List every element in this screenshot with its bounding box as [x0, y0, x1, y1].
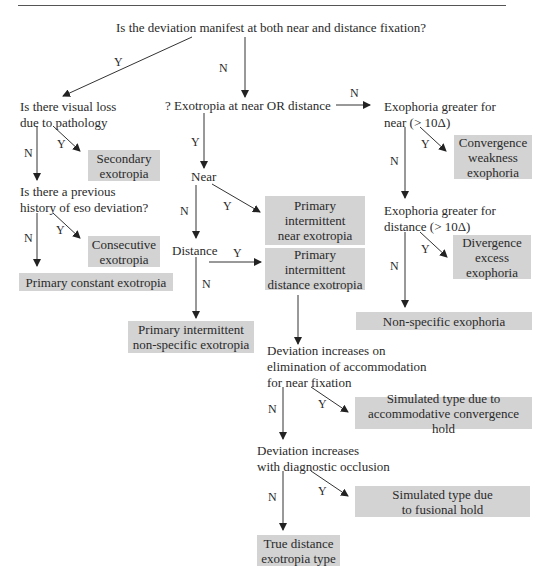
- edge-label-yes: Y: [223, 200, 232, 212]
- edge-label-yes: Y: [421, 243, 430, 255]
- outcome-line: accommodative convergence hold: [355, 406, 532, 436]
- edge-label-yes: Y: [56, 224, 65, 236]
- outcome-line: Secondary: [97, 151, 152, 166]
- outcome-line: weakness: [468, 150, 518, 165]
- outcome-line: near exotropia: [278, 228, 353, 243]
- question-distance: Distance: [172, 243, 217, 259]
- question-occlusion-line: Deviation increases: [257, 443, 390, 459]
- question-eso-history-line: Is there a previous: [20, 184, 148, 200]
- outcome-line: exophoria: [466, 265, 518, 280]
- question-exophoria-near: Exophoria greater for near (> 10Δ): [384, 99, 496, 131]
- edge-label-no: N: [268, 491, 277, 503]
- question-visual-loss-line: due to pathology: [20, 115, 116, 131]
- outcome-line: exotropia type: [261, 551, 336, 566]
- question-visual-loss: Is there visual loss due to pathology: [20, 99, 116, 131]
- outcome-line: Primary: [294, 198, 336, 213]
- question-accommodation-line: elimination of accommodation: [267, 359, 427, 375]
- outcome-consecutive-exotropia: Consecutive exotropia: [88, 236, 160, 267]
- question-accommodation-line: Deviation increases on: [267, 343, 427, 359]
- outcome-line: to fusional hold: [402, 502, 484, 517]
- outcome-line: Simulated type due: [392, 487, 492, 502]
- question-exophoria-distance: Exophoria greater for distance (> 10Δ): [384, 203, 496, 235]
- outcome-line: True distance: [264, 536, 334, 551]
- question-exophoria-near-line: near (> 10Δ): [384, 115, 496, 131]
- outcome-line: exotropia: [99, 166, 148, 181]
- edge-label-yes: Y: [191, 136, 200, 148]
- edge-label-no: N: [180, 205, 189, 217]
- question-accommodation-line: for near fixation: [267, 375, 427, 391]
- edge-label-yes: Y: [421, 138, 430, 150]
- outcome-line: Primary intermittent: [138, 322, 244, 337]
- outcome-line: Simulated type due to: [387, 391, 501, 406]
- outcome-secondary-exotropia: Secondary exotropia: [88, 150, 160, 181]
- outcome-line: exotropia: [99, 252, 148, 267]
- outcome-line: Non-specific exophoria: [383, 314, 505, 329]
- question-exophoria-distance-line: Exophoria greater for: [384, 203, 496, 219]
- question-near: Near: [191, 169, 216, 185]
- question-exophoria-near-line: Exophoria greater for: [384, 99, 496, 115]
- edge-label-yes: Y: [233, 247, 242, 259]
- outcome-convergence-weakness-exophoria: Convergence weakness exophoria: [454, 135, 532, 179]
- outcome-line: Divergence: [462, 235, 522, 250]
- edge-label-no: N: [219, 62, 228, 74]
- outcome-line: exophoria: [467, 165, 519, 180]
- edge-label-no: N: [390, 155, 399, 167]
- outcome-true-distance-exotropia: True distance exotropia type: [257, 535, 340, 566]
- edge-label-no: N: [390, 260, 399, 272]
- question-visual-loss-line: Is there visual loss: [20, 99, 116, 115]
- outcome-intermittent-distance-exotropia: Primary intermittent distance exotropia: [265, 248, 365, 290]
- edge-label-no: N: [350, 87, 359, 99]
- outcome-intermittent-nonspecific-exotropia: Primary intermittent non-specific exotro…: [128, 321, 254, 353]
- edge-label-yes: Y: [318, 398, 327, 410]
- outcome-line: intermittent: [285, 213, 346, 228]
- outcome-line: Convergence: [459, 135, 527, 150]
- outcome-line: non-specific exotropia: [133, 337, 250, 352]
- question-exophoria-distance-line: distance (> 10Δ): [384, 219, 496, 235]
- edge-label-yes: Y: [114, 56, 123, 68]
- outcome-primary-constant-exotropia: Primary constant exotropia: [19, 273, 173, 291]
- edge-label-yes: Y: [57, 138, 66, 150]
- edge-label-no: N: [202, 278, 211, 290]
- outcome-line: Consecutive: [92, 237, 156, 252]
- question-root: Is the deviation manifest at both near a…: [116, 20, 426, 36]
- outcome-intermittent-near-exotropia: Primary intermittent near exotropia: [265, 196, 365, 245]
- outcome-line: Primary constant exotropia: [26, 275, 167, 290]
- outcome-line: excess: [475, 250, 509, 265]
- edge-label-no: N: [24, 147, 33, 159]
- outcome-line: distance exotropia: [268, 277, 363, 292]
- outcome-simulated-fusional: Simulated type due to fusional hold: [355, 486, 530, 517]
- question-eso-history-line: history of eso deviation?: [20, 200, 148, 216]
- outcome-divergence-excess-exophoria: Divergence excess exophoria: [453, 235, 531, 279]
- question-exotropia-near-or-distance: ? Exotropia at near OR distance: [165, 98, 331, 114]
- edge-label-no: N: [268, 403, 277, 415]
- outcome-simulated-accommodative: Simulated type due to accommodative conv…: [355, 397, 532, 429]
- outcome-nonspecific-exophoria: Non-specific exophoria: [356, 312, 532, 330]
- question-occlusion-line: with diagnostic occlusion: [257, 459, 390, 475]
- question-accommodation: Deviation increases on elimination of ac…: [267, 343, 427, 391]
- outcome-line: intermittent: [285, 262, 346, 277]
- outcome-line: Primary: [294, 247, 336, 262]
- question-occlusion: Deviation increases with diagnostic occl…: [257, 443, 390, 475]
- edge-label-no: N: [24, 232, 33, 244]
- edge-label-yes: Y: [318, 485, 327, 497]
- question-eso-history: Is there a previous history of eso devia…: [20, 184, 148, 216]
